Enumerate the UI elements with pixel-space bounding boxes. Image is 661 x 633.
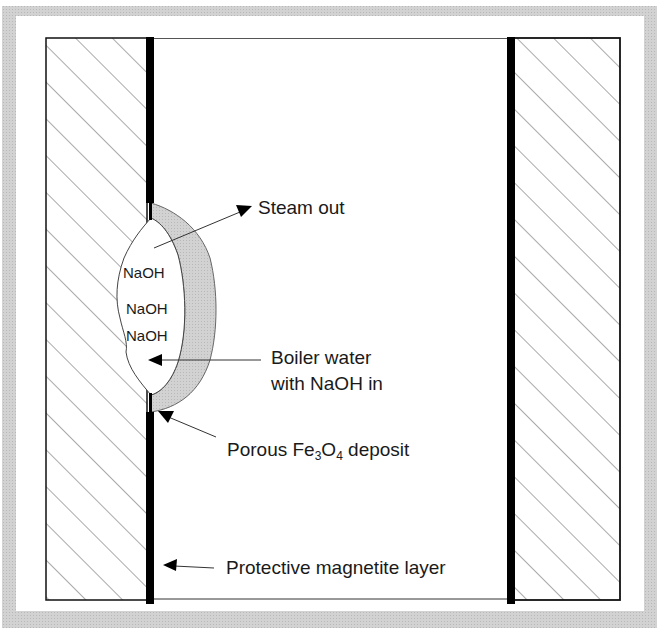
porous-deposit-prefix: Porous Fe [227,439,315,460]
naoh-label-1: NaOH [123,265,165,280]
steam-out-label: Steam out [258,198,345,217]
diagram-canvas [0,0,661,633]
porous-deposit-label: Porous Fe3O4 deposit [227,440,409,459]
porous-deposit-mid: O [321,439,336,460]
right-magnetite-layer [507,37,515,604]
protective-layer-label: Protective magnetite layer [226,558,446,577]
boiler-water-label-line2: with NaOH in [271,374,383,393]
boiler-water-label-line1: Boiler water [271,348,371,367]
naoh-label-3: NaOH [126,328,168,343]
right-tube-wall [514,38,620,600]
porous-deposit-suffix: deposit [343,439,410,460]
naoh-label-2: NaOH [126,301,168,316]
porous-deposit-sub2: 4 [336,449,343,463]
